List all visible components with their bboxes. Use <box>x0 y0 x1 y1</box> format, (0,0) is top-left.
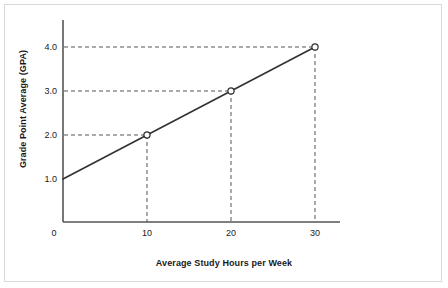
y-axis-title: Grade Point Average (GPA) <box>18 24 28 194</box>
x-tick-label-0: 0 <box>39 228 69 238</box>
x-tick-label-30: 30 <box>300 228 330 238</box>
data-point-marker <box>228 88 234 94</box>
data-point-marker <box>144 132 150 138</box>
y-tick-label-3: 3.0 <box>33 86 57 96</box>
data-point-marker <box>312 44 318 50</box>
y-tick-label-4: 4.0 <box>33 42 57 52</box>
y-tick-label-1: 1.0 <box>33 174 57 184</box>
y-tick-label-2: 2.0 <box>33 130 57 140</box>
line-chart-plot <box>0 0 448 288</box>
chart-figure: 4.0 3.0 2.0 1.0 0 10 20 30 Average Study… <box>0 0 448 288</box>
x-tick-label-10: 10 <box>132 228 162 238</box>
x-tick-label-20: 20 <box>216 228 246 238</box>
data-series-line <box>63 47 315 179</box>
x-axis-title: Average Study Hours per Week <box>0 258 448 268</box>
